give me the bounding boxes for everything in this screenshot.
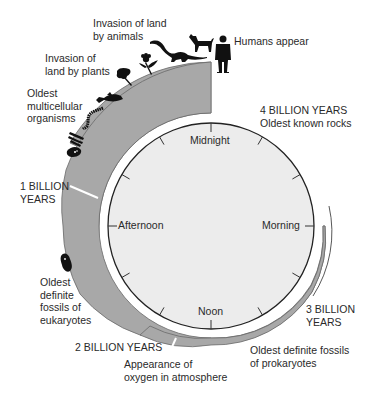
- clock-label-noon: Noon: [198, 305, 223, 317]
- tree-fern-icon: [117, 68, 132, 86]
- clock-label-afternoon: Afternoon: [118, 219, 164, 231]
- label-two-billion: 2 BILLION YEARS: [75, 341, 162, 354]
- label-humans-appear: Humans appear: [234, 35, 309, 48]
- label-eukaryotes: Oldest definite fossils of eukaryotes: [40, 276, 91, 326]
- label-invasion-plants: Invasion of land by plants: [45, 52, 110, 77]
- clock-label-midnight: Midnight: [190, 134, 230, 146]
- dog-silhouette-icon: [189, 34, 214, 52]
- label-multicellular: Oldest multicellular organisms: [27, 87, 82, 125]
- label-four-billion: 4 BILLION YEARS Oldest known rocks: [260, 104, 352, 129]
- label-one-billion: 1 BILLION YEARS: [20, 180, 69, 205]
- clock-label-morning: Morning: [262, 219, 300, 231]
- label-invasion-animals: Invasion of land by animals: [93, 17, 167, 42]
- label-prokaryotes: Oldest definite fossils of prokaryotes: [250, 344, 349, 369]
- human-silhouette-icon: [215, 36, 231, 74]
- label-three-billion: 3 BILLION YEARS: [306, 303, 355, 328]
- label-oxygen: Appearance of oxygen in atmosphere: [124, 358, 227, 383]
